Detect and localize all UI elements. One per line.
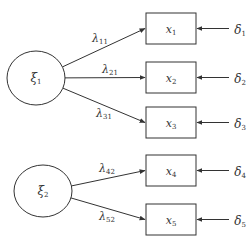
indicator-label-x3: x3 <box>166 117 177 131</box>
loading-label-21-symbol: λ <box>101 63 109 76</box>
loading-label-11: λ11 <box>91 32 108 46</box>
indicator-label-x1-subscript: 1 <box>172 29 176 37</box>
latent-label-xi2: ξ2 <box>37 184 48 199</box>
indicator-label-x5: x5 <box>166 214 177 228</box>
loading-label-42: λ42 <box>98 162 115 176</box>
loading-label-21: λ21 <box>101 63 118 77</box>
latent-label-xi1-subscript: 1 <box>37 78 41 86</box>
indicator-label-x2: x2 <box>166 72 177 86</box>
error-label-delta4-symbol: δ <box>234 165 241 179</box>
loading-label-42-symbol: λ <box>98 162 106 175</box>
loading-label-52-symbol: λ <box>98 210 106 223</box>
error-label-delta2: δ2 <box>234 72 246 87</box>
error-label-delta1-subscript: 1 <box>241 30 245 38</box>
loading-label-11-subscript: 11 <box>99 38 108 46</box>
error-label-delta3: δ3 <box>234 117 246 132</box>
loading-label-21-subscript: 21 <box>109 69 118 77</box>
error-label-delta2-symbol: δ <box>234 72 241 86</box>
indicator-label-x1: x1 <box>166 23 177 37</box>
sem-diagram: ξ1ξ2x1x2x3x4x5λ11λ21λ31λ42λ52δ1δ2δ3δ4δ5 <box>0 0 250 245</box>
error-label-delta5-symbol: δ <box>234 214 241 228</box>
error-label-delta2-subscript: 2 <box>241 79 245 87</box>
loading-label-42-subscript: 42 <box>106 168 115 176</box>
error-label-delta1-symbol: δ <box>234 23 241 37</box>
loading-label-31-symbol: λ <box>95 107 103 120</box>
error-label-delta3-symbol: δ <box>234 117 241 131</box>
loading-label-11-symbol: λ <box>91 32 99 45</box>
indicator-label-x4: x4 <box>166 165 177 179</box>
loading-label-52: λ52 <box>98 210 115 224</box>
error-label-delta5-subscript: 5 <box>241 221 245 229</box>
error-label-delta3-subscript: 3 <box>241 124 245 132</box>
error-label-delta4: δ4 <box>234 165 246 180</box>
indicator-label-x2-subscript: 2 <box>172 78 176 86</box>
latent-label-xi1: ξ1 <box>30 71 41 86</box>
loading-label-52-subscript: 52 <box>106 216 115 224</box>
error-label-delta5: δ5 <box>234 214 246 229</box>
error-label-delta4-subscript: 4 <box>241 172 246 180</box>
loading-label-31: λ31 <box>95 107 112 121</box>
indicator-label-x3-subscript: 3 <box>172 123 176 131</box>
indicator-label-x5-subscript: 5 <box>172 220 176 228</box>
loading-label-31-subscript: 31 <box>103 113 112 121</box>
diagram-shapes <box>7 13 229 235</box>
loading-arrow-xi1-x1 <box>62 29 145 67</box>
latent-label-xi2-subscript: 2 <box>44 191 48 199</box>
diagram-labels: ξ1ξ2x1x2x3x4x5λ11λ21λ31λ42λ52δ1δ2δ3δ4δ5 <box>30 23 246 229</box>
error-label-delta1: δ1 <box>234 23 246 38</box>
indicator-label-x4-subscript: 4 <box>172 171 177 179</box>
